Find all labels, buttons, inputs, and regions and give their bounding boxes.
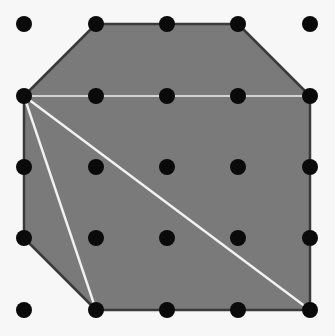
grid-dot [16,16,32,32]
grid-dot [88,230,104,246]
grid-dot [230,16,246,32]
grid-dot [159,88,175,104]
grid-dot [230,302,246,318]
geoboard-diagram [0,0,335,336]
grid-dot [88,159,104,175]
grid-dot [16,88,32,104]
grid-dot [302,159,318,175]
grid-dot [302,16,318,32]
grid-dot [159,159,175,175]
grid-dot [88,16,104,32]
grid-dot [230,159,246,175]
grid-dot [302,302,318,318]
grid-dot [88,88,104,104]
grid-dot [159,16,175,32]
grid-dot [159,230,175,246]
grid-dot [16,230,32,246]
grid-dot [16,159,32,175]
grid-dot [302,88,318,104]
grid-dot [230,88,246,104]
grid-dot [88,302,104,318]
grid-dot [16,302,32,318]
grid-dot [230,230,246,246]
grid-dot [159,302,175,318]
grid-dot [302,230,318,246]
